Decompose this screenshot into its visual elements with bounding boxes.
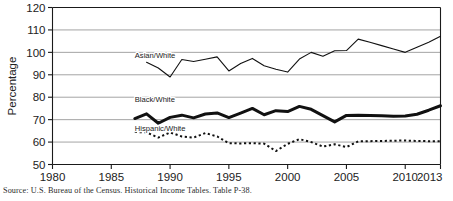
income-ratio-line-chart: 5060708090100110120 19801985199019952000… — [0, 0, 453, 201]
y-tick-label: 100 — [26, 47, 45, 59]
x-tick-label: 1990 — [157, 171, 183, 183]
x-tick-label: 1980 — [40, 171, 66, 183]
y-axis-ticks: 5060708090100110120 — [26, 2, 52, 171]
x-tick-label: 2010 — [392, 171, 418, 183]
series-label: Hispanic/White — [135, 124, 186, 133]
y-tick-label: 90 — [33, 69, 46, 81]
x-tick-label: 2013 — [417, 171, 443, 183]
y-axis-label: Percentage — [6, 57, 18, 116]
y-tick-label: 80 — [33, 91, 46, 103]
data-series — [135, 36, 441, 151]
y-tick-label: 120 — [26, 2, 45, 14]
x-axis-ticks: 19801985199019952000200520102013 — [40, 165, 443, 183]
x-tick-label: 1995 — [216, 171, 242, 183]
y-tick-label: 110 — [27, 24, 45, 36]
x-tick-label: 2005 — [334, 171, 360, 183]
source-note: Source: U.S. Bureau of the Census. Histo… — [3, 186, 252, 195]
x-tick-label: 2000 — [275, 171, 301, 183]
y-tick-label: 60 — [33, 136, 46, 148]
series-line-asian-white — [147, 36, 441, 77]
plot-frame — [53, 8, 441, 165]
series-line-hispanic-white — [135, 132, 441, 151]
x-tick-label: 1985 — [98, 171, 124, 183]
chart-figure: 5060708090100110120 19801985199019952000… — [0, 0, 453, 201]
series-label: Asian/White — [135, 51, 176, 60]
y-tick-label: 70 — [33, 114, 46, 126]
series-label: Black/White — [135, 95, 175, 104]
grid-lines — [53, 30, 441, 142]
series-line-black-white — [135, 106, 441, 123]
y-axis-title: Percentage — [6, 57, 18, 116]
y-tick-label: 50 — [33, 159, 46, 171]
